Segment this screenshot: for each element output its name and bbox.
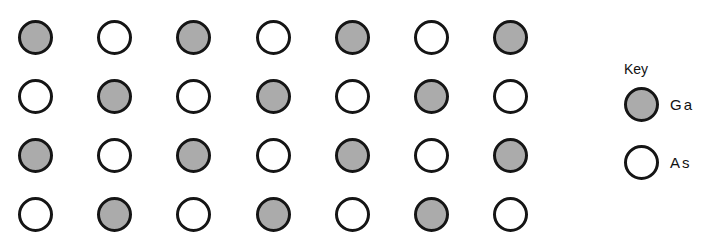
atom-grid	[0, 0, 560, 246]
legend-item-as: As	[620, 145, 719, 185]
as-atom-icon	[97, 20, 132, 55]
as-atom-icon	[335, 79, 370, 114]
ga-atom-icon	[414, 197, 449, 232]
legend-label-ga: Ga	[670, 96, 694, 113]
ga-atom-icon	[18, 138, 53, 173]
ga-atom-icon	[493, 138, 528, 173]
as-atom-icon	[256, 20, 291, 55]
as-atom-icon	[624, 145, 659, 180]
as-atom-icon	[176, 197, 211, 232]
ga-atom-icon	[624, 87, 659, 122]
as-atom-icon	[18, 197, 53, 232]
legend-item-ga: Ga	[620, 87, 719, 127]
legend-label-as: As	[670, 154, 692, 171]
ga-atom-icon	[493, 20, 528, 55]
as-atom-icon	[97, 138, 132, 173]
ga-atom-icon	[414, 79, 449, 114]
ga-atom-icon	[335, 20, 370, 55]
legend: Key Ga As	[620, 58, 719, 208]
ga-atom-icon	[97, 197, 132, 232]
as-atom-icon	[256, 138, 291, 173]
ga-atom-icon	[256, 79, 291, 114]
legend-title: Key	[624, 61, 648, 77]
ga-atom-icon	[18, 20, 53, 55]
ga-atom-icon	[256, 197, 291, 232]
as-atom-icon	[335, 197, 370, 232]
ga-atom-icon	[335, 138, 370, 173]
ga-atom-icon	[97, 79, 132, 114]
as-atom-icon	[414, 20, 449, 55]
as-atom-icon	[18, 79, 53, 114]
as-atom-icon	[493, 79, 528, 114]
as-atom-icon	[176, 79, 211, 114]
ga-atom-icon	[176, 20, 211, 55]
as-atom-icon	[414, 138, 449, 173]
ga-atom-icon	[176, 138, 211, 173]
as-atom-icon	[493, 197, 528, 232]
